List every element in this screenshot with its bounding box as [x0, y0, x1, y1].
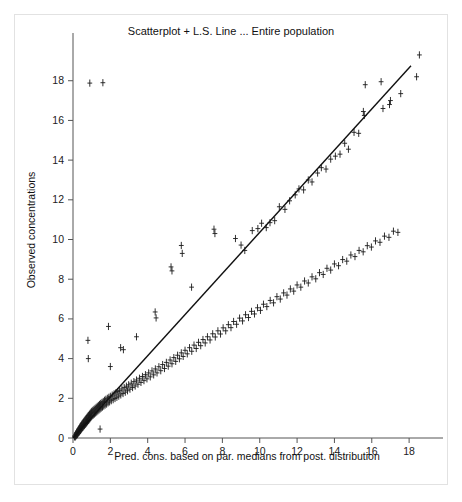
data-point: [189, 348, 194, 355]
data-point: [125, 387, 130, 394]
data-point: [203, 339, 208, 346]
data-point: [346, 146, 351, 153]
data-point: [106, 323, 111, 330]
x-tick-label: 18: [403, 445, 415, 457]
data-point: [324, 165, 329, 172]
y-tick-label: 8: [58, 273, 64, 285]
data-point: [118, 344, 123, 351]
data-point: [378, 239, 383, 246]
data-point: [179, 242, 184, 249]
x-tick-label: 0: [70, 445, 76, 457]
data-point: [205, 333, 210, 340]
data-point: [250, 227, 255, 234]
data-point: [196, 339, 201, 346]
data-point: [333, 153, 338, 160]
data-point: [340, 256, 345, 263]
data-point: [361, 248, 366, 255]
data-point: [317, 269, 322, 276]
data-point: [302, 277, 307, 284]
scatterplot-svg: Scatterplot + L.S. Line ... Entire popul…: [15, 15, 447, 484]
data-point: [108, 363, 113, 370]
data-point: [122, 384, 127, 391]
data-point: [310, 273, 315, 280]
data-point: [153, 308, 158, 315]
data-point: [216, 327, 221, 334]
data-point: [361, 108, 366, 115]
y-tick-label: 6: [58, 312, 64, 324]
data-point: [98, 425, 103, 432]
data-point: [194, 345, 199, 352]
data-point: [213, 333, 218, 340]
data-point: [379, 78, 384, 85]
data-point: [208, 336, 213, 343]
data-point: [221, 324, 226, 331]
data-point: [310, 178, 315, 185]
data-point: [121, 390, 126, 397]
y-tick-label: 4: [58, 352, 64, 364]
ls-line: [73, 66, 411, 438]
data-point: [388, 97, 393, 104]
data-point: [369, 243, 374, 250]
data-point: [226, 321, 231, 328]
data-point: [134, 333, 139, 340]
data-point: [180, 250, 185, 257]
y-tick-label: 0: [58, 432, 64, 444]
data-point: [382, 233, 387, 240]
data-point: [417, 51, 422, 58]
data-point: [86, 355, 91, 362]
data-point: [321, 271, 326, 278]
data-point: [239, 241, 244, 248]
chart-panel: Scatterplot + L.S. Line ... Entire popul…: [14, 14, 448, 485]
data-point: [387, 234, 392, 241]
data-point: [398, 90, 403, 97]
data-point: [87, 80, 92, 87]
data-point: [121, 346, 126, 353]
x-axis-label: Pred. cons. based on par. medians from p…: [114, 450, 380, 462]
y-tick-label: 14: [52, 154, 64, 166]
y-tick-label: 2: [58, 392, 64, 404]
y-axis-label: Observed concentrations: [25, 172, 37, 289]
data-point: [86, 337, 91, 344]
data-point: [259, 220, 264, 227]
data-point: [185, 350, 190, 357]
data-point: [328, 266, 333, 273]
data-point: [201, 336, 206, 343]
data-point: [154, 314, 159, 321]
data-point: [255, 225, 260, 232]
data-point: [192, 342, 197, 349]
figure-root: Scatterplot + L.S. Line ... Entire popul…: [0, 0, 462, 502]
data-point: [387, 101, 392, 108]
data-point: [414, 73, 419, 80]
data-point: [170, 267, 175, 274]
data-point: [381, 105, 386, 112]
data-point: [210, 330, 215, 337]
data-point: [213, 230, 218, 237]
data-point: [124, 383, 129, 390]
data-point: [198, 342, 203, 349]
chart-title: Scatterplot + L.S. Line ... Entire popul…: [128, 25, 334, 37]
data-point: [313, 275, 318, 282]
data-point: [123, 389, 128, 396]
data-point: [169, 263, 174, 270]
y-tick-label: 10: [52, 233, 64, 245]
data-point: [357, 247, 362, 254]
data-point: [356, 130, 361, 137]
data-point: [396, 229, 401, 236]
data-point: [332, 260, 337, 267]
data-point: [336, 262, 341, 269]
data-point: [229, 324, 234, 331]
x-tick-label: 2: [107, 445, 113, 457]
data-point: [306, 279, 311, 286]
data-point: [363, 81, 368, 88]
data-point: [365, 242, 370, 249]
data-point: [391, 228, 396, 235]
least-squares-line: [73, 66, 411, 438]
y-axis-ticks: 024681012141618: [52, 74, 73, 443]
data-point: [301, 186, 306, 193]
data-point: [344, 258, 349, 265]
data-point: [353, 253, 358, 260]
y-tick-label: 16: [52, 114, 64, 126]
y-tick-label: 18: [52, 74, 64, 86]
data-point: [233, 235, 238, 242]
y-tick-label: 12: [52, 193, 64, 205]
